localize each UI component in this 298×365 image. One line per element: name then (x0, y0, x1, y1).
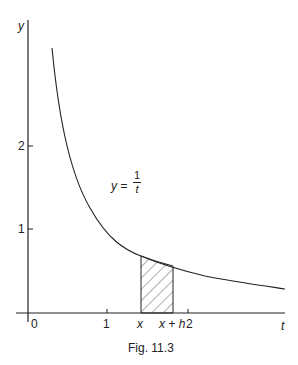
graph-canvas (0, 0, 298, 365)
curve-label-fraction: 1 t (133, 170, 141, 195)
curve-1-over-t (52, 48, 285, 289)
shaded-strip (141, 256, 173, 313)
figure-caption: Fig. 11.3 (128, 342, 174, 354)
x-tick-1: 1 (103, 318, 110, 330)
curve-label-numerator: 1 (133, 170, 141, 183)
y-axis-label: y (18, 20, 24, 32)
strip-left-label: x (137, 318, 143, 330)
strip-right-label: x + h (159, 318, 185, 330)
x-axis-label: t (281, 320, 284, 332)
origin-label: 0 (31, 318, 38, 330)
curve-label-denominator: t (133, 183, 141, 195)
x-tick-2: 2 (186, 318, 193, 330)
y-tick-2: 2 (18, 140, 25, 152)
y-tick-1: 1 (18, 223, 25, 235)
curve-label-lhs: y = (111, 180, 127, 192)
